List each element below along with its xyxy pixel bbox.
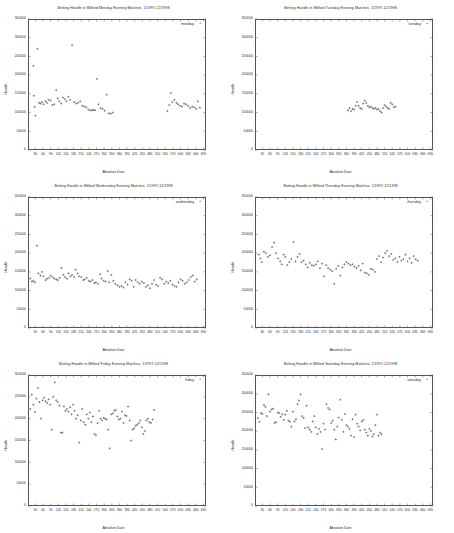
x-tick-label: 390 (351, 153, 356, 156)
x-tick-label: 600 (405, 153, 410, 156)
x-tick-label: 360 (117, 331, 122, 334)
x-tick-label: 240 (86, 153, 91, 156)
x-tick-label: 360 (344, 331, 349, 334)
y-axis-label-thursday: Handle (231, 261, 235, 272)
x-tick-label: 660 (193, 509, 198, 512)
x-tick-label: 240 (86, 509, 91, 512)
x-tick-label: 630 (413, 509, 418, 512)
x-tick-label: 420 (359, 331, 364, 334)
x-tick-label: 330 (336, 331, 341, 334)
x-tick-label: 360 (344, 509, 349, 512)
chart-title-tuesday: Betting Handle in Milford Tuesday Evenin… (227, 6, 454, 11)
x-tick-label: 180 (298, 509, 303, 512)
x-tick-label: 450 (367, 331, 372, 334)
chart-panel-tuesday: Betting Handle in Milford Tuesday Evenin… (227, 0, 454, 177)
x-tick-label: 690 (201, 153, 206, 156)
x-tick-label: 270 (94, 153, 99, 156)
x-tick-label: 240 (86, 331, 91, 334)
x-tick-label: 480 (147, 153, 152, 156)
x-tick-label: 300 (328, 153, 333, 156)
y-tick-label: 250000 (15, 55, 26, 58)
plot-area-tuesday (255, 19, 433, 150)
y-tick-label: 0 (24, 504, 26, 507)
x-tick-label: 570 (170, 153, 175, 156)
chart-title-thursday: Betting Handle in Milford Thursday Eveni… (227, 184, 454, 189)
x-tick-label: 60 (41, 153, 45, 156)
x-tick-label: 540 (390, 331, 395, 334)
plot-area-monday (28, 19, 206, 150)
y-tick-label: 150000 (15, 439, 26, 442)
plot-area-friday (28, 375, 206, 506)
x-tick-label: 30 (34, 331, 38, 334)
x-tick-label: 270 (94, 331, 99, 334)
x-tick-label: 450 (367, 509, 372, 512)
y-tick-label: 50000 (244, 130, 253, 133)
y-tick-label: 300000 (242, 214, 253, 217)
x-tick-label: 540 (163, 153, 168, 156)
x-tick-label: 630 (186, 331, 191, 334)
x-tick-label: 150 (290, 509, 295, 512)
chart-title-monday: Betting Handle in Milford Monday Evening… (0, 6, 227, 11)
x-tick-label: 360 (117, 153, 122, 156)
x-tick-label: 330 (109, 153, 114, 156)
x-tick-label: 30 (34, 509, 38, 512)
x-tick-label: 180 (71, 509, 76, 512)
x-tick-label: 150 (63, 331, 68, 334)
x-tick-label: 180 (71, 153, 76, 156)
legend-label-friday: friday (146, 378, 194, 382)
x-tick-label: 510 (155, 153, 160, 156)
legend-label-monday: monday (146, 22, 194, 26)
legend-label-saturday: saturday (373, 378, 421, 382)
x-tick-label: 180 (71, 331, 76, 334)
x-tick-label: 300 (101, 331, 106, 334)
x-tick-label: 600 (405, 331, 410, 334)
y-tick-label: 350000 (15, 195, 26, 198)
x-tick-label: 480 (374, 153, 379, 156)
y-tick-label: 150000 (242, 270, 253, 273)
y-tick-label: 150000 (15, 270, 26, 273)
x-tick-label: 690 (428, 331, 433, 334)
x-tick-label: 510 (155, 331, 160, 334)
y-tick-label: 300000 (242, 392, 253, 395)
x-tick-label: 480 (147, 509, 152, 512)
y-axis-label-wednesday: Handle (4, 261, 8, 272)
y-tick-label: 350000 (242, 195, 253, 198)
plot-area-thursday (255, 197, 433, 328)
x-tick-label: 240 (313, 153, 318, 156)
x-tick-label: 150 (63, 509, 68, 512)
x-tick-label: 450 (140, 153, 145, 156)
x-tick-label: 420 (359, 153, 364, 156)
legend-marker-wednesday: + (199, 199, 201, 203)
y-tick-label: 50000 (244, 308, 253, 311)
x-tick-label: 210 (306, 153, 311, 156)
legend-label-thursday: thursday (373, 200, 421, 204)
x-tick-label: 420 (132, 509, 137, 512)
x-tick-label: 690 (201, 331, 206, 334)
x-axis-label-monday: Absolute Date (0, 170, 227, 174)
figure-grid: Betting Handle in Milford Monday Evening… (0, 0, 454, 533)
y-tick-label: 100000 (242, 289, 253, 292)
x-tick-label: 330 (109, 331, 114, 334)
x-tick-label: 210 (79, 509, 84, 512)
y-tick-label: 50000 (17, 308, 26, 311)
x-tick-label: 420 (359, 509, 364, 512)
y-tick-label: 0 (251, 326, 253, 329)
chart-title-saturday: Betting Handle in Milford Saturday Eveni… (227, 362, 454, 367)
x-tick-label: 150 (290, 331, 295, 334)
x-tick-label: 330 (109, 509, 114, 512)
x-axis-label-thursday: Absolute Date (227, 348, 454, 352)
x-tick-label: 60 (41, 509, 45, 512)
x-tick-label: 510 (382, 509, 387, 512)
y-tick-label: 50000 (17, 482, 26, 485)
y-tick-label: 200000 (15, 251, 26, 254)
x-tick-label: 570 (397, 331, 402, 334)
x-axis-label-saturday: Absolute Date (227, 526, 454, 530)
x-tick-label: 660 (420, 509, 425, 512)
y-tick-label: 200000 (242, 73, 253, 76)
x-tick-label: 420 (132, 153, 137, 156)
x-tick-label: 420 (132, 331, 137, 334)
x-tick-label: 60 (268, 509, 272, 512)
x-tick-label: 60 (268, 153, 272, 156)
y-axis-label-monday: Handle (4, 83, 8, 94)
x-tick-label: 660 (420, 331, 425, 334)
